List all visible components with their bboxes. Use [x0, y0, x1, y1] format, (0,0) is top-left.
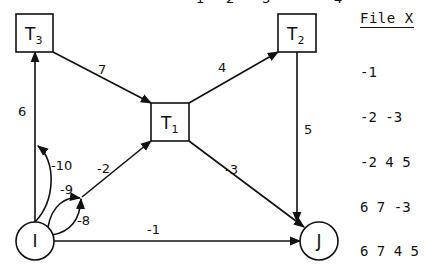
edge-label: 7 — [98, 62, 106, 77]
top-tick: 1 — [196, 0, 204, 6]
svg-text:J: J — [315, 231, 321, 251]
edge-t1-t2 — [189, 52, 278, 103]
top-tick: 4 — [334, 0, 342, 6]
file-x-title: File X — [360, 10, 414, 28]
edge-label: -8 — [77, 213, 90, 228]
node-t2: T2 — [278, 14, 316, 52]
edge-label: -3 — [225, 162, 238, 177]
node-j: J — [300, 222, 338, 260]
network-diagram: 1 2 3 4 7 4 5 -3 6 -10 -2 -9 -8 — [0, 0, 442, 266]
top-tick-labels: 1 2 3 4 — [196, 0, 342, 6]
file-row: 6 7 -3 — [360, 199, 411, 215]
edge-label: 4 — [218, 60, 226, 75]
node-t3: T3 — [16, 14, 53, 52]
node-i: I — [16, 222, 54, 260]
node-t1: T1 — [151, 103, 189, 141]
top-tick: 3 — [262, 0, 270, 6]
edge-i-t3-curved — [35, 146, 51, 222]
edge-t3-t1 — [53, 52, 151, 103]
edge-label: 6 — [18, 104, 26, 119]
edge-label: -9 — [60, 182, 73, 197]
top-tick: 2 — [226, 0, 234, 6]
edge-i-t1 — [82, 141, 151, 197]
edge-label: -2 — [97, 161, 110, 176]
edge-label: -10 — [51, 158, 72, 173]
file-x-panel: File X -1 -2 -3 -2 4 5 6 7 -3 6 7 4 5 — [360, 10, 442, 28]
file-row: 6 7 4 5 — [360, 243, 419, 259]
edge-label: 5 — [304, 122, 312, 137]
file-row: -1 — [360, 64, 377, 80]
edge-i-t1-curved-upper — [48, 198, 80, 227]
svg-text:I: I — [32, 231, 37, 251]
file-row: -2 4 5 — [360, 154, 411, 170]
edge-t1-j — [189, 141, 304, 227]
file-row: -2 -3 — [360, 109, 402, 125]
edge-label: -1 — [147, 222, 160, 237]
